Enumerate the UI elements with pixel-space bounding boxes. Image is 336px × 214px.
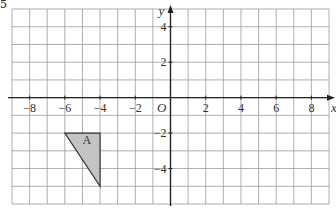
x-tick-label: 6 bbox=[273, 101, 279, 115]
triangle-a-label: A bbox=[83, 133, 92, 147]
x-tick-label: 8 bbox=[308, 101, 314, 115]
y-tick-label: 4 bbox=[161, 20, 167, 34]
y-axis-label: y bbox=[157, 3, 165, 18]
tick-labels: −8−6−4−2246842−2−4Oxy bbox=[23, 3, 336, 176]
axes bbox=[8, 5, 335, 206]
origin-label: O bbox=[157, 100, 167, 115]
x-axis-label: x bbox=[330, 100, 336, 115]
x-tick-label: 4 bbox=[238, 101, 244, 115]
y-tick-label: 2 bbox=[161, 55, 167, 69]
y-tick-label: −4 bbox=[154, 162, 167, 176]
coordinate-grid: A −8−6−4−2246842−2−4Oxy bbox=[0, 0, 336, 214]
x-tick-label: 2 bbox=[203, 101, 209, 115]
x-tick-label: −6 bbox=[58, 101, 71, 115]
x-tick-label: −2 bbox=[129, 101, 142, 115]
y-tick-label: −2 bbox=[154, 126, 167, 140]
x-tick-label: −4 bbox=[94, 101, 107, 115]
x-tick-label: −8 bbox=[23, 101, 36, 115]
